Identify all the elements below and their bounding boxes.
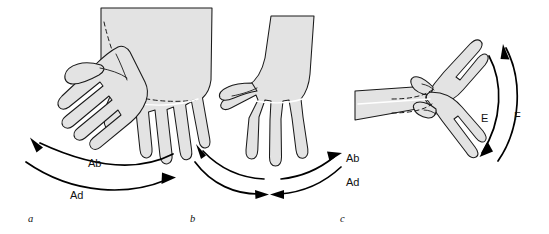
panel-b-letter: b	[190, 213, 195, 224]
panel-c-f-arrow	[498, 44, 517, 161]
panel-b-ab-label: Ab	[346, 152, 359, 164]
panel-b-hand	[219, 16, 314, 166]
anatomical-figure: Ab Ad a	[0, 0, 549, 234]
panel-a-hand-abducted	[58, 46, 147, 149]
panel-a: Ab Ad a	[26, 8, 212, 224]
figure-canvas: Ab Ad a	[0, 0, 549, 234]
panel-b-ad-label: Ad	[346, 176, 359, 188]
panel-a-ab-label: Ab	[88, 157, 101, 169]
panel-a-ad-label: Ad	[70, 189, 83, 201]
panel-b: Ab Ad b	[190, 16, 359, 224]
panel-c: E F c	[340, 40, 521, 224]
panel-a-letter: a	[28, 213, 33, 224]
panel-c-letter: c	[340, 213, 345, 224]
panel-b-ab-arrow	[196, 144, 342, 179]
panel-c-e-label: E	[481, 112, 488, 124]
panel-c-f-label: F	[514, 110, 521, 122]
